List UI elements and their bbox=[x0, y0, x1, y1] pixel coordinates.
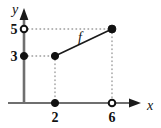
x-axis-arrowhead bbox=[129, 99, 141, 108]
function-segment-f bbox=[55, 29, 112, 56]
y-tick-label-3: 3 bbox=[11, 49, 18, 64]
point-y-intercept-5 bbox=[21, 26, 28, 33]
y-tick-label-5: 5 bbox=[11, 22, 18, 37]
point-segment-right-endpoint bbox=[108, 25, 116, 33]
data-points bbox=[20, 25, 116, 107]
x-tick-label-6: 6 bbox=[109, 110, 116, 125]
point-x-intercept-6 bbox=[109, 100, 116, 107]
point-x-intercept-2 bbox=[51, 99, 58, 106]
y-axis-label: y bbox=[10, 2, 19, 17]
guide-lines bbox=[24, 29, 112, 103]
segment-f-line bbox=[55, 29, 112, 56]
graph-figure: 5 3 2 6 x y f bbox=[0, 0, 161, 128]
labels: 5 3 2 6 x y f bbox=[10, 2, 154, 125]
x-tick-label-2: 2 bbox=[52, 110, 59, 125]
point-y-intercept-3 bbox=[20, 52, 27, 59]
graph-canvas: 5 3 2 6 x y f bbox=[0, 0, 161, 128]
x-axis-label: x bbox=[146, 98, 154, 113]
y-axis-arrowhead bbox=[20, 8, 29, 20]
point-segment-left-endpoint bbox=[51, 52, 58, 59]
axes bbox=[8, 8, 141, 107]
